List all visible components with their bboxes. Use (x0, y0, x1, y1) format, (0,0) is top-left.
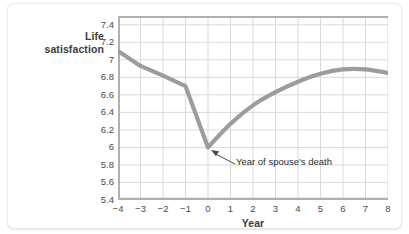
vertical-gridlines (118, 16, 388, 200)
line-chart-svg (118, 16, 388, 200)
y-tick-label: 5.6 (84, 177, 114, 187)
x-tick-label: 8 (375, 203, 401, 214)
y-axis-tick-labels: 5.45.65.866.26.46.66.877.27.4 (84, 4, 114, 234)
y-tick-label: 6.4 (84, 107, 114, 117)
y-tick-label: 7.4 (84, 20, 114, 30)
y-tick-label: 5.8 (84, 160, 114, 170)
y-tick-label: 6.6 (84, 90, 114, 100)
y-tick-label: 6.8 (84, 72, 114, 82)
figure-card: Life satisfaction 5.45.65.866.26.46.66.8… (7, 3, 402, 229)
y-tick-label: 7 (84, 55, 114, 65)
y-tick-label: 7.2 (84, 37, 114, 47)
x-axis-tick-labels: −4−3−2−1012345678 (8, 203, 409, 217)
y-tick-label: 6 (84, 142, 114, 152)
y-tick-label: 6.2 (84, 125, 114, 135)
annotation-spouse-death-label: Year of spouse's death (236, 156, 332, 168)
x-axis-title: Year (118, 217, 388, 229)
annotation-leader-line (211, 150, 235, 164)
plot-area (118, 16, 388, 200)
